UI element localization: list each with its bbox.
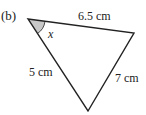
side-label-right: 7 cm (115, 72, 139, 84)
angle-label: x (48, 28, 53, 40)
triangle-diagram (0, 0, 146, 115)
part-label: (b) (1, 9, 16, 22)
side-label-left: 5 cm (29, 66, 53, 78)
side-label-top: 6.5 cm (78, 10, 111, 22)
